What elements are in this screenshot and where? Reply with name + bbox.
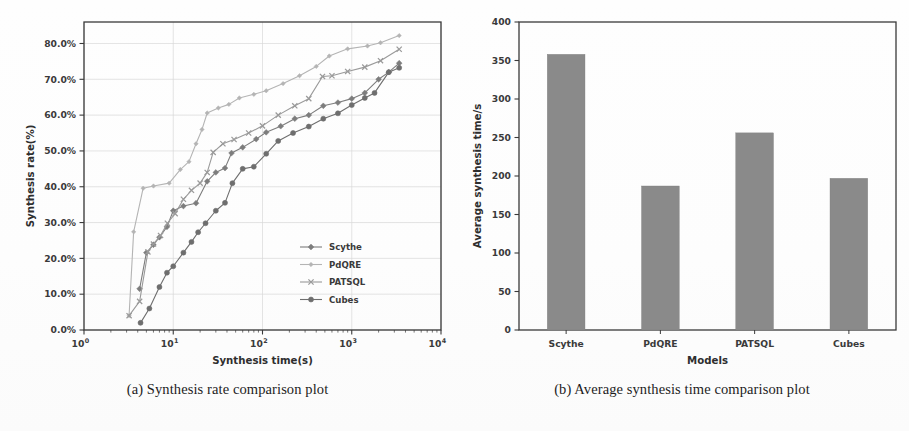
synthesis-rate-chart: 0.0%10.0%20.0%30.0%40.0%50.0%60.0%70.0%8… xyxy=(0,0,455,375)
grid-lines xyxy=(84,22,441,330)
series-scythe xyxy=(137,60,402,291)
bars-group xyxy=(547,54,867,334)
y-tick-label: 20.0% xyxy=(44,253,76,264)
svg-text:10: 10 xyxy=(250,338,263,349)
svg-text:2: 2 xyxy=(263,337,267,345)
x-axis-label: Models xyxy=(687,355,728,366)
x-axis-label: Synthesis time(s) xyxy=(212,355,313,366)
y-tick-label: 40.0% xyxy=(44,181,76,192)
bar-cubes[interactable] xyxy=(830,178,868,330)
svg-text:3: 3 xyxy=(353,337,357,345)
x-axis-tick-labels: ScythePdQREPATSQLCubes xyxy=(549,338,866,349)
x-tick-label: PATSQL xyxy=(735,338,774,349)
bar-patsql[interactable] xyxy=(736,133,774,330)
x-tick-label: 101 xyxy=(161,337,179,350)
y-tick-label: 50 xyxy=(498,286,511,297)
y-tick-label: 350 xyxy=(492,55,511,66)
legend-item-pdqre[interactable]: PdQRE xyxy=(300,260,361,270)
x-tick-label: 103 xyxy=(339,337,357,350)
y-tick-label: 100 xyxy=(492,247,511,258)
y-tick-label: 10.0% xyxy=(44,288,76,299)
legend-item-scythe[interactable]: Scythe xyxy=(300,242,362,252)
y-axis-tick-labels: 050100150200250300350400 xyxy=(492,16,511,335)
bar-pdqre[interactable] xyxy=(642,186,680,330)
legend-label: PATSQL xyxy=(329,277,366,287)
x-tick-label: PdQRE xyxy=(643,338,677,349)
axis-ticks xyxy=(515,22,520,330)
panel-synthesis-rate: 0.0%10.0%20.0%30.0%40.0%50.0%60.0%70.0%8… xyxy=(0,0,455,431)
panel-average-time: 050100150200250300350400ScythePdQREPATSQ… xyxy=(455,0,909,431)
svg-text:10: 10 xyxy=(339,338,352,349)
y-axis-label: Synthesis rate(%) xyxy=(25,125,36,228)
x-tick-label: 100 xyxy=(72,337,90,350)
x-axis-tick-labels: 100101102103104 xyxy=(72,337,447,350)
x-tick-label: 102 xyxy=(250,337,268,350)
y-tick-label: 0 xyxy=(505,324,511,335)
caption-b: (b) Average synthesis time comparison pl… xyxy=(455,381,909,398)
y-tick-label: 300 xyxy=(492,93,511,104)
y-tick-label: 30.0% xyxy=(44,217,76,228)
svg-text:10: 10 xyxy=(72,338,85,349)
svg-text:1: 1 xyxy=(174,337,178,345)
average-time-chart: 050100150200250300350400ScythePdQREPATSQ… xyxy=(455,0,909,375)
y-tick-label: 70.0% xyxy=(44,74,76,85)
legend-label: Scythe xyxy=(329,242,362,252)
y-tick-label: 50.0% xyxy=(44,145,76,156)
figure-two-panel: 0.0%10.0%20.0%30.0%40.0%50.0%60.0%70.0%8… xyxy=(0,0,909,431)
y-axis-tick-labels: 0.0%10.0%20.0%30.0%40.0%50.0%60.0%70.0%8… xyxy=(44,38,76,336)
x-tick-label: Cubes xyxy=(833,338,865,349)
legend: ScythePdQREPATSQLCubes xyxy=(300,242,366,305)
y-tick-label: 80.0% xyxy=(44,38,76,49)
y-axis-label: Average synthesis time/s xyxy=(472,104,483,249)
axis-ticks xyxy=(80,43,442,334)
legend-label: PdQRE xyxy=(329,260,361,270)
x-tick-label: Scythe xyxy=(549,338,584,349)
y-tick-label: 200 xyxy=(492,170,511,181)
y-tick-label: 0.0% xyxy=(51,324,76,335)
legend-item-cubes[interactable]: Cubes xyxy=(300,295,359,305)
svg-text:10: 10 xyxy=(161,338,174,349)
svg-text:10: 10 xyxy=(429,338,442,349)
x-tick-label: 104 xyxy=(429,337,447,350)
y-tick-label: 250 xyxy=(492,132,511,143)
caption-a: (a) Synthesis rate comparison plot xyxy=(0,381,455,398)
y-tick-label: 150 xyxy=(492,209,511,220)
legend-item-patsql[interactable]: PATSQL xyxy=(300,277,366,287)
y-tick-label: 400 xyxy=(492,16,511,27)
bar-scythe[interactable] xyxy=(547,54,585,330)
legend-label: Cubes xyxy=(329,295,359,305)
y-tick-label: 60.0% xyxy=(44,109,76,120)
svg-text:0: 0 xyxy=(85,337,90,345)
svg-text:4: 4 xyxy=(442,337,447,345)
